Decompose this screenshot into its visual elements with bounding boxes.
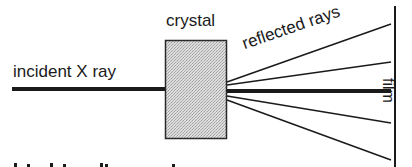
incident-x-ray-label: incident X ray: [13, 63, 116, 80]
crystal-block: [166, 41, 227, 139]
cutoff-text-fragments: [14, 163, 175, 167]
crystal-label: crystal: [166, 12, 215, 29]
film-label: film: [380, 78, 396, 103]
